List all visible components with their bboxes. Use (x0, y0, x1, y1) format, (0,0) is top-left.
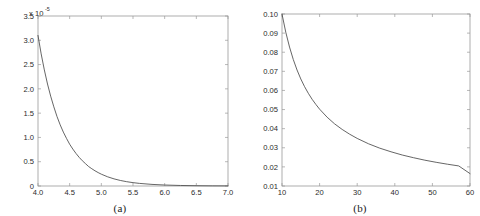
x-tick-label: 5.0 (96, 188, 107, 197)
y-multiplier-exponent-a: -5 (45, 6, 50, 12)
y-tick-label: 2.5 (23, 60, 34, 69)
x-tick-label: 60 (466, 188, 474, 197)
plot-b-svg: 102030405060 0.010.020.030.040.050.060.0… (240, 0, 480, 216)
x-tick-label: 50 (428, 188, 436, 197)
y-tick-label: 0.07 (263, 67, 278, 76)
data-curve-a (38, 35, 228, 185)
y-tick-label: 1.0 (23, 133, 34, 142)
tick-marks-a (38, 16, 228, 186)
panel-caption-a: (a) (0, 202, 240, 214)
y-tick-label: 3.5 (23, 12, 34, 21)
y-tick-label: 0.09 (263, 29, 278, 38)
x-tick-label: 4.0 (33, 188, 44, 197)
y-tick-label: 1.5 (23, 109, 34, 118)
x-tick-label: 6.5 (191, 188, 202, 197)
x-tick-label: 6.0 (159, 188, 170, 197)
axis-frame-b (282, 14, 470, 186)
x-tick-labels-b: 102030405060 (278, 188, 474, 197)
y-tick-label: 0.10 (263, 10, 278, 19)
x-tick-label: 40 (391, 188, 399, 197)
y-tick-label: 0 (30, 182, 34, 191)
x-tick-label: 7.0 (223, 188, 234, 197)
y-tick-labels-b: 0.010.020.030.040.050.060.070.080.090.10 (263, 10, 278, 191)
y-tick-label: 0.08 (263, 48, 278, 57)
x-tick-label: 30 (353, 188, 361, 197)
panel-b: 102030405060 0.010.020.030.040.050.060.0… (240, 0, 480, 216)
x-tick-labels-a: 4.04.55.05.56.06.57.0 (33, 188, 234, 197)
tick-marks-b (282, 14, 470, 186)
y-tick-label: 0.06 (263, 86, 278, 95)
figure-container: x 10 -5 4.04.55.05.56.06.57.0 00.51.01.5… (0, 0, 480, 216)
y-tick-label: 0.02 (263, 163, 278, 172)
panel-a: x 10 -5 4.04.55.05.56.06.57.0 00.51.01.5… (0, 0, 240, 216)
x-tick-label: 20 (315, 188, 323, 197)
axis-frame-a (38, 16, 228, 186)
y-tick-label: 3.0 (23, 36, 34, 45)
y-tick-label: 0.01 (263, 182, 278, 191)
panel-caption-b: (b) (240, 202, 480, 214)
plot-a-svg: x 10 -5 4.04.55.05.56.06.57.0 00.51.01.5… (0, 0, 240, 216)
data-curve-b (282, 14, 470, 174)
x-tick-label: 10 (278, 188, 286, 197)
y-tick-label: 0.5 (23, 157, 34, 166)
y-tick-label: 2.0 (23, 85, 34, 94)
y-tick-label: 0.04 (263, 124, 278, 133)
x-tick-label: 5.5 (128, 188, 139, 197)
y-tick-label: 0.05 (263, 105, 278, 114)
y-tick-label: 0.03 (263, 143, 278, 152)
y-tick-labels-a: 00.51.01.52.02.53.03.5 (23, 12, 34, 191)
x-tick-label: 4.5 (64, 188, 75, 197)
